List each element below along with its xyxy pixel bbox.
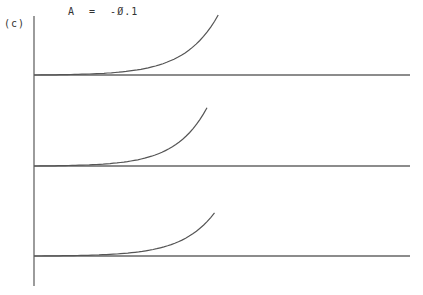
parameter-annotation: A = -Ø.1 <box>68 6 138 17</box>
curve-1 <box>34 15 218 75</box>
curve-3 <box>34 213 215 256</box>
panel-label: (c) <box>4 18 25 29</box>
chart <box>0 0 423 295</box>
curve-2 <box>34 108 207 166</box>
